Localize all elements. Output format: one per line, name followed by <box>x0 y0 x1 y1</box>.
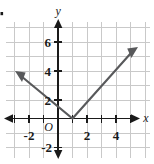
x-tick-label-pos2: 2 <box>84 128 91 143</box>
bullet-marker <box>1 12 4 15</box>
y-axis-arrow-up <box>54 19 62 28</box>
y-axis-arrow-down <box>54 150 62 159</box>
x-axis-arrow-left <box>4 114 13 122</box>
y-tick-label-pos6: 6 <box>45 35 52 50</box>
y-tick-label-pos4: 4 <box>45 64 52 79</box>
chart-screenshot: -2 2 4 2 4 6 -2 O x y <box>0 0 154 164</box>
absolute-value-curve <box>15 47 138 119</box>
curve-arrow-left <box>15 71 26 82</box>
absolute-value-graph: -2 2 4 2 4 6 -2 O x y <box>0 0 154 164</box>
y-tick-label-pos2: 2 <box>45 93 52 108</box>
x-axis-label: x <box>142 111 149 125</box>
y-axis-label: y <box>55 4 62 18</box>
origin-label: O <box>44 120 53 134</box>
x-tick-label-pos4: 4 <box>113 128 120 143</box>
x-tick-label-neg2: -2 <box>24 128 35 143</box>
y-axis <box>54 19 62 159</box>
y-tick-label-neg2: -2 <box>41 140 52 155</box>
x-axis-arrow-right <box>131 114 140 122</box>
